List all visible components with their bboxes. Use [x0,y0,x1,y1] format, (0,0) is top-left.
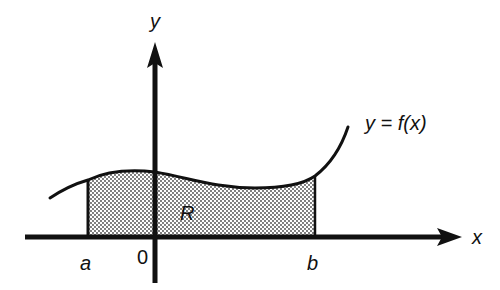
area-under-curve-diagram: y x y = f(x) R a 0 b [0,0,500,290]
curve-label: y = f(x) [363,112,427,134]
b-label: b [307,252,318,274]
a-label: a [80,252,91,274]
origin-label: 0 [137,246,148,268]
region-label: R [180,202,194,224]
x-axis-label: x [471,226,483,248]
y-axis-label: y [148,10,161,32]
